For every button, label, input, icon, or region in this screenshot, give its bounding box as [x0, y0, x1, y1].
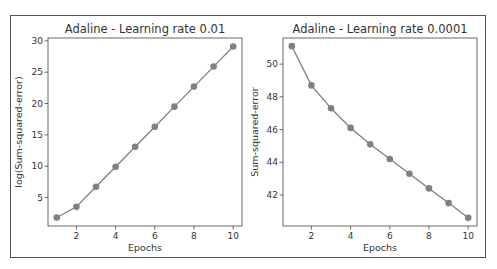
left-y-tick-label: 10	[32, 161, 44, 171]
right-chart-title: Adaline - Learning rate 0.0001	[292, 22, 467, 36]
right-data-point	[386, 156, 393, 163]
left-axis-ticks: 24681051015202530	[32, 36, 240, 241]
left-data-point	[73, 204, 80, 211]
left-data-point	[112, 163, 119, 170]
left-y-tick-label: 20	[32, 99, 44, 109]
right-y-tick-label: 44	[267, 157, 279, 167]
right-data-point	[308, 82, 315, 89]
right-y-tick-label: 50	[267, 59, 279, 69]
right-y-tick-label: 42	[267, 190, 278, 200]
right-x-tick-label: 4	[348, 231, 354, 241]
right-x-axis-label: Epochs	[363, 242, 397, 253]
left-chart-title: Adaline - Learning rate 0.01	[65, 22, 225, 36]
right-data-point	[347, 125, 354, 132]
left-data-point	[230, 43, 237, 50]
right-x-tick-label: 10	[462, 231, 474, 241]
left-x-tick-label: 2	[74, 231, 80, 241]
left-data-point	[93, 183, 100, 190]
right-x-tick-label: 2	[309, 231, 315, 241]
left-x-tick-label: 10	[227, 231, 239, 241]
right-data-point	[465, 215, 472, 222]
right-x-tick-label: 6	[387, 231, 393, 241]
right-y-axis-label: Sum-squared-error	[249, 87, 260, 177]
right-y-tick-label: 46	[267, 125, 279, 135]
right-data-series	[289, 43, 472, 221]
left-data-point	[210, 63, 217, 70]
right-data-point	[406, 170, 413, 177]
right-axis-ticks: 2468104244464850	[267, 59, 475, 241]
left-data-point	[171, 103, 178, 110]
right-line	[292, 46, 468, 218]
figure-canvas: Adaline - Learning rate 0.01 Epochs log(…	[0, 0, 497, 269]
left-chart: Adaline - Learning rate 0.01 Epochs log(…	[13, 22, 242, 253]
right-data-point	[445, 200, 452, 207]
left-x-tick-label: 4	[113, 231, 119, 241]
left-y-tick-label: 25	[32, 67, 43, 77]
left-x-tick-label: 8	[191, 231, 197, 241]
left-data-point	[191, 83, 198, 90]
left-y-tick-label: 30	[32, 36, 44, 46]
left-data-point	[54, 214, 61, 221]
left-data-point	[151, 123, 158, 130]
left-line	[57, 47, 233, 218]
right-y-tick-label: 48	[267, 92, 279, 102]
right-data-point	[328, 105, 335, 112]
left-y-tick-label: 5	[37, 193, 43, 203]
right-chart: Adaline - Learning rate 0.0001 Epochs Su…	[249, 22, 477, 253]
right-plot-area	[283, 38, 477, 226]
right-x-tick-label: 8	[426, 231, 432, 241]
left-data-series	[54, 43, 237, 221]
right-data-point	[367, 141, 374, 148]
right-data-point	[426, 185, 433, 192]
left-x-tick-label: 6	[152, 231, 158, 241]
right-data-point	[289, 43, 296, 50]
left-y-tick-label: 15	[32, 130, 43, 140]
left-data-point	[132, 143, 139, 150]
left-y-axis-label: log(Sum-squared-error)	[13, 76, 24, 187]
left-x-axis-label: Epochs	[128, 242, 162, 253]
